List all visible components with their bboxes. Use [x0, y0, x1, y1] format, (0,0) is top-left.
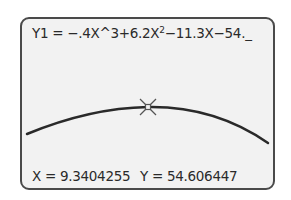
- trace-x-value: X = 9.3404255: [32, 168, 130, 184]
- equation-prefix: Y1 = −.4X^3+6.2X: [32, 25, 159, 41]
- trace-y-value: Y = 54.606447: [140, 168, 237, 184]
- calculator-screen: [20, 17, 275, 190]
- equation-line: Y1 = −.4X^3+6.2X2−11.3X−54._: [32, 25, 252, 41]
- equation-suffix: −11.3X−54.: [165, 25, 245, 41]
- text-cursor: _: [245, 25, 251, 41]
